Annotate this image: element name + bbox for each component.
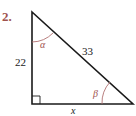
angle-beta-label: β	[92, 88, 98, 99]
side-horizontal-label: x	[70, 105, 76, 116]
beta-arc	[102, 82, 110, 104]
triangle-outline	[32, 12, 133, 104]
right-triangle-diagram: 2. α β 22 33 x	[0, 0, 136, 116]
problem-number: 2.	[2, 9, 12, 24]
right-angle-marker	[32, 96, 40, 104]
side-hypotenuse-label: 33	[82, 45, 94, 57]
angle-alpha-label: α	[40, 39, 46, 50]
side-vertical-label: 22	[15, 56, 26, 68]
